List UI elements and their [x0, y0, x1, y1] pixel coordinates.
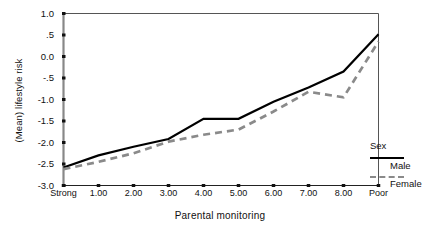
- y-axis-tick-label: -1.5: [20, 115, 54, 126]
- chart-figure: (Mean) lifestyle risk Parental monitorin…: [0, 0, 433, 233]
- y-axis-tick: [62, 163, 66, 166]
- y-axis-tick: [62, 55, 66, 58]
- x-axis-tick: [237, 184, 241, 187]
- x-axis-tick: [167, 184, 171, 187]
- x-axis-tick: [62, 184, 66, 187]
- series-line-female: [64, 41, 379, 169]
- x-axis-tick: [307, 184, 311, 187]
- y-axis-tick-label: -2.0: [20, 137, 54, 148]
- y-axis-tick-label: 1.0: [20, 8, 54, 19]
- x-axis-tick: [132, 184, 136, 187]
- plot-area: [0, 0, 433, 233]
- y-axis-tick-label: 0.0: [20, 51, 54, 62]
- legend-swatch-male: [370, 157, 404, 159]
- x-axis-tick: [342, 184, 346, 187]
- y-axis-tick: [62, 12, 66, 15]
- y-axis-tick: [62, 98, 66, 101]
- y-axis-tick: [62, 77, 66, 80]
- x-axis-tick-label: Poor: [357, 188, 401, 198]
- y-axis-tick-label: -2.5: [20, 158, 54, 169]
- x-axis-tick: [377, 184, 381, 187]
- y-axis-tick: [62, 34, 66, 37]
- y-axis-tick: [62, 141, 66, 144]
- y-axis-tick-label: .5: [20, 29, 54, 40]
- series-line-male: [64, 34, 379, 167]
- x-axis-title: Parental monitoring: [60, 210, 380, 221]
- y-axis-tick-label: -.5: [20, 72, 54, 83]
- legend-title: Sex: [370, 140, 386, 151]
- y-axis-tick-label: -1.0: [20, 94, 54, 105]
- x-axis-tick: [272, 184, 276, 187]
- y-axis-tick: [62, 120, 66, 123]
- legend-label-male: Male: [390, 160, 411, 171]
- x-axis-tick: [202, 184, 206, 187]
- x-axis-tick: [97, 184, 101, 187]
